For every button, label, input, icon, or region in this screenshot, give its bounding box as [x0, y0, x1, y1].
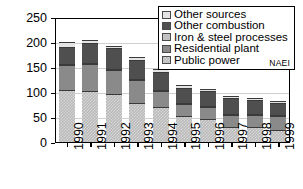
y-tick-mark — [51, 143, 55, 144]
y-tick-label: 200 — [17, 37, 47, 50]
y-tick-label: 150 — [17, 62, 47, 75]
x-tick-mark — [208, 143, 209, 147]
legend-swatch-iron-steel-processes — [162, 33, 171, 41]
x-tick-mark — [114, 143, 115, 147]
legend-swatch-other-combustion — [162, 22, 171, 30]
legend-swatch-other-sources — [162, 11, 171, 19]
x-tick-label: 1991 — [95, 122, 109, 150]
x-tick-label: 1990 — [72, 122, 86, 150]
source-annotation: NAEI — [269, 58, 290, 68]
x-tick-label: 1992 — [119, 122, 133, 150]
legend-label: Residential plant — [174, 43, 259, 55]
legend[interactable]: Other sources Other combustion Iron & st… — [158, 6, 295, 70]
x-tick-label: 1996 — [213, 122, 227, 150]
legend-swatch-public-power — [162, 56, 171, 64]
x-tick-label: 1993 — [142, 122, 156, 150]
y-tick-label: 100 — [17, 87, 47, 100]
x-tick-mark — [184, 143, 185, 147]
x-tick-mark — [161, 143, 162, 147]
legend-item[interactable]: Residential plant — [162, 43, 291, 54]
x-tick-mark — [231, 143, 232, 147]
x-tick-label: 1997 — [236, 122, 250, 150]
x-tick-label: 1995 — [189, 122, 203, 150]
legend-label: Public power — [174, 55, 240, 67]
x-tick-label: 1999 — [283, 122, 297, 150]
x-tick-label: 1998 — [260, 122, 274, 150]
legend-swatch-residential-plant — [162, 45, 171, 53]
x-tick-mark — [67, 143, 68, 147]
x-tick-mark — [90, 143, 91, 147]
x-tick-mark — [255, 143, 256, 147]
y-tick-label: 0 — [17, 137, 47, 150]
x-tick-mark — [137, 143, 138, 147]
x-tick-label: 1994 — [166, 122, 180, 150]
y-tick-label: 50 — [17, 112, 47, 125]
chart-root: Emissions (t) 050100150200250 1990199119… — [0, 0, 303, 189]
y-tick-label: 250 — [17, 12, 47, 25]
x-tick-mark — [278, 143, 279, 147]
